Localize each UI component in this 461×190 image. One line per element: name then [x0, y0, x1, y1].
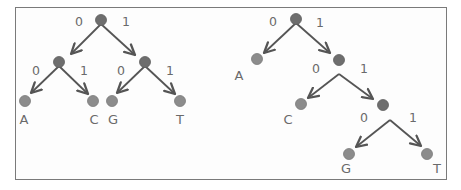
binary-trees-diagram [0, 0, 461, 190]
edge-bit-label: 1 [80, 65, 88, 78]
leaf-node [20, 96, 31, 107]
leaf-node [88, 96, 99, 107]
leaf-label: T [433, 162, 441, 175]
internal-node [54, 57, 65, 68]
leaf-node [422, 149, 433, 160]
edge-bit-label: 1 [360, 63, 368, 76]
edge-bit-label: 0 [269, 16, 277, 29]
edge-bit-label: 1 [122, 16, 130, 29]
edge-bit-label: 1 [409, 112, 417, 125]
edge-bit-label: 1 [166, 65, 174, 78]
internal-node [334, 55, 345, 66]
edge-bit-label: 0 [312, 63, 320, 76]
leaf-label: G [341, 162, 351, 175]
leaf-node [175, 96, 186, 107]
leaf-label: T [176, 113, 184, 126]
internal-node [378, 100, 389, 111]
edge-arrow [339, 74, 373, 99]
edge-bit-label: 0 [117, 65, 125, 78]
leaf-node [344, 149, 355, 160]
internal-node [140, 57, 151, 68]
leaf-node [296, 99, 307, 110]
internal-node [291, 14, 302, 25]
edge-arrow [308, 74, 339, 98]
leaf-node [107, 96, 118, 107]
edge-bit-label: 1 [316, 17, 324, 30]
edge-bit-label: 0 [75, 16, 83, 29]
edge-bit-label: 0 [32, 65, 40, 78]
leaf-label: G [108, 113, 118, 126]
leaf-label: C [89, 113, 98, 126]
internal-node [96, 15, 107, 26]
leaf-label: A [20, 113, 29, 126]
edge-arrow [296, 23, 330, 53]
edge-bit-label: 0 [360, 112, 368, 125]
leaf-label: C [283, 113, 292, 126]
edges-layer [31, 23, 421, 147]
leaf-label: A [235, 69, 244, 82]
leaf-node [252, 54, 263, 65]
